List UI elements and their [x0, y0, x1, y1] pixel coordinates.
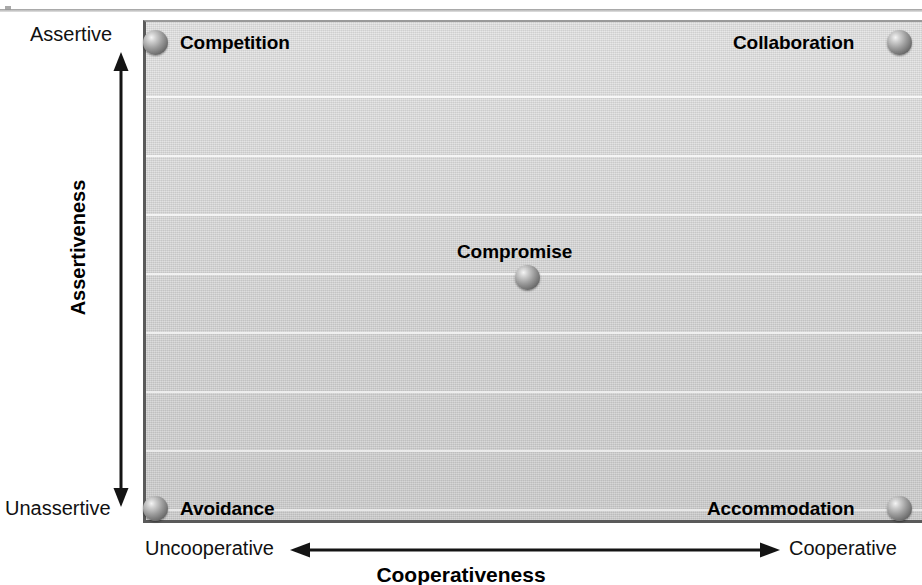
axis-label-assertive: Assertive — [30, 23, 112, 46]
gridline — [146, 96, 922, 98]
label-accommodation: Accommodation — [707, 498, 855, 520]
marker-compromise[interactable] — [515, 265, 540, 290]
label-compromise: Compromise — [457, 241, 572, 263]
y-axis-double-arrow — [108, 52, 134, 507]
gridline — [146, 391, 922, 393]
gridline — [146, 155, 922, 157]
scan-artifact-line-secondary — [0, 11, 922, 12]
gridline — [146, 214, 922, 216]
axis-title-cooperativeness: Cooperativeness — [0, 563, 922, 585]
axis-label-uncooperative: Uncooperative — [145, 537, 274, 560]
conflict-modes-diagram: Competition Collaboration Compromise Avo… — [0, 0, 922, 585]
x-axis-double-arrow — [290, 538, 780, 562]
gridline — [146, 332, 922, 334]
axis-title-assertiveness: Assertiveness — [67, 148, 90, 348]
marker-accommodation[interactable] — [887, 496, 912, 521]
label-avoidance: Avoidance — [180, 498, 274, 520]
gridline — [146, 450, 922, 452]
marker-competition[interactable] — [143, 30, 168, 55]
marker-avoidance[interactable] — [143, 496, 168, 521]
label-collaboration: Collaboration — [733, 32, 854, 54]
axis-label-unassertive: Unassertive — [5, 497, 111, 520]
axis-label-cooperative: Cooperative — [789, 537, 897, 560]
marker-collaboration[interactable] — [887, 30, 912, 55]
label-competition: Competition — [180, 32, 290, 54]
